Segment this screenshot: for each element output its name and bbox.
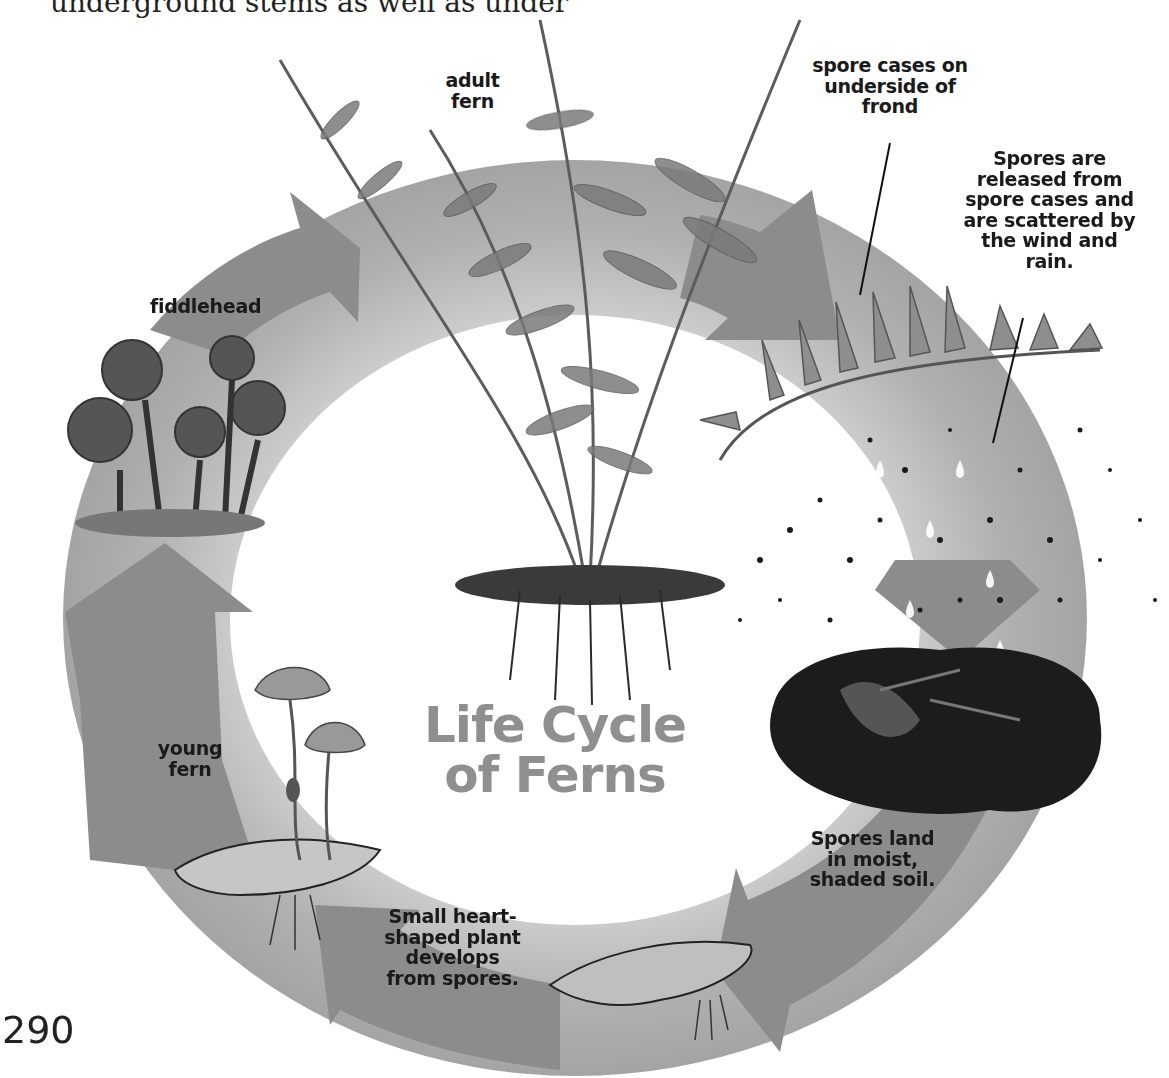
label-line: fern	[140, 759, 240, 780]
label-line: adult	[425, 70, 520, 91]
label-young-fern: young fern	[140, 738, 240, 779]
label-adult-fern: adult fern	[425, 70, 520, 111]
label-line: the wind and	[930, 230, 1169, 251]
label-spores-released: Spores are released from spore cases and…	[930, 148, 1169, 271]
diagram-title: Life Cycle of Ferns	[420, 700, 690, 800]
soil-clump-illustration	[770, 647, 1101, 813]
label-line: frond	[775, 96, 1005, 117]
label-line: fiddlehead	[150, 296, 300, 317]
label-line: spore cases and	[930, 189, 1169, 210]
label-line: shaded soil.	[785, 869, 960, 890]
label-spore-cases: spore cases on underside of frond	[775, 55, 1005, 117]
title-line: of Ferns	[420, 750, 690, 800]
label-line: rain.	[930, 251, 1169, 272]
label-spores-land: Spores land in moist, shaded soil.	[785, 828, 960, 890]
label-fiddlehead: fiddlehead	[150, 296, 300, 317]
label-line: fern	[425, 91, 520, 112]
page-number: 290	[2, 1008, 75, 1052]
fern-life-cycle-diagram: underground stems as well as under adult…	[0, 0, 1169, 1078]
label-line: Spores land	[785, 828, 960, 849]
label-line: spore cases on	[775, 55, 1005, 76]
label-line: underside of	[775, 76, 1005, 97]
label-line: develops	[360, 947, 545, 968]
label-heart-shaped-plant: Small heart- shaped plant develops from …	[360, 906, 545, 988]
label-line: shaped plant	[360, 927, 545, 948]
label-line: from spores.	[360, 968, 545, 989]
label-line: young	[140, 738, 240, 759]
label-line: Spores are	[930, 148, 1169, 169]
label-line: in moist,	[785, 849, 960, 870]
title-line: Life Cycle	[420, 700, 690, 750]
label-line: Small heart-	[360, 906, 545, 927]
label-line: released from	[930, 169, 1169, 190]
cut-off-body-text: underground stems as well as under	[50, 0, 568, 19]
label-line: are scattered by	[930, 210, 1169, 231]
